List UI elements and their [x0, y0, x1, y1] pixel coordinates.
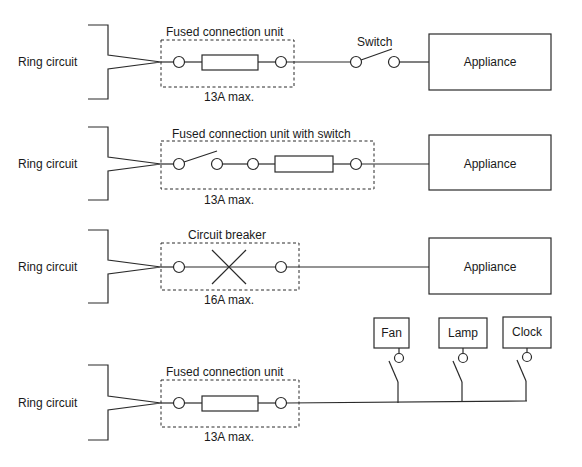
clock-label: Clock — [512, 325, 543, 339]
terminal-icon — [174, 262, 185, 273]
load-fan: Fan — [374, 318, 409, 403]
terminal-icon — [174, 398, 185, 409]
fuse-icon — [275, 156, 333, 172]
fuse-icon — [202, 396, 258, 411]
ring-circuit-bracket-icon — [88, 365, 161, 440]
terminal-icon — [174, 159, 185, 170]
row-fused-connection-unit: Ring circuit Fused connection unit 13A m… — [18, 25, 551, 104]
switch-terminal-icon — [523, 353, 532, 362]
device-label: Fused connection unit — [166, 25, 284, 39]
switch-terminal-icon — [351, 57, 362, 68]
appliance-label: Appliance — [464, 260, 517, 274]
appliance-label: Appliance — [464, 55, 517, 69]
ring-circuit-label: Ring circuit — [18, 260, 78, 274]
switch-blade-icon — [361, 49, 392, 60]
ring-circuit-bracket-icon — [88, 127, 161, 200]
row-fused-unit-multiple-loads: Ring circuit Fused connection unit 13A m… — [18, 317, 551, 444]
switch-blade-icon — [389, 361, 398, 382]
rating-label: 13A max. — [204, 193, 254, 207]
terminal-icon — [351, 159, 362, 170]
switch-terminal-icon — [395, 354, 404, 363]
row-circuit-breaker: Ring circuit Circuit breaker 16A max. Ap… — [18, 228, 551, 307]
ring-circuit-label: Ring circuit — [18, 157, 78, 171]
device-label: Fused connection unit — [166, 365, 284, 379]
terminal-icon — [174, 57, 185, 68]
ring-circuit-diagram: Ring circuit Fused connection unit 13A m… — [0, 0, 582, 467]
lamp-label: Lamp — [448, 326, 478, 340]
switch-blade-icon — [517, 360, 526, 381]
rating-label: 13A max. — [204, 90, 254, 104]
ring-circuit-label: Ring circuit — [18, 396, 78, 410]
switch-blade-icon — [184, 151, 217, 162]
load-lamp: Lamp — [439, 318, 487, 402]
terminal-icon — [276, 57, 287, 68]
switch-blade-icon — [453, 361, 462, 382]
rating-label: 13A max. — [204, 430, 254, 444]
supply-bus-line — [287, 401, 528, 403]
terminal-icon — [248, 159, 259, 170]
device-label: Circuit breaker — [188, 228, 266, 242]
terminal-icon — [276, 398, 287, 409]
ring-circuit-bracket-icon — [88, 25, 161, 99]
fuse-icon — [202, 55, 258, 70]
ring-circuit-bracket-icon — [88, 230, 161, 303]
row-fused-connection-unit-with-switch: Ring circuit Fused connection unit with … — [18, 127, 551, 207]
terminal-icon — [212, 159, 223, 170]
switch-label: Switch — [357, 35, 392, 49]
switch-terminal-icon — [389, 57, 400, 68]
ring-circuit-label: Ring circuit — [18, 55, 78, 69]
fan-label: Fan — [381, 326, 402, 340]
appliance-label: Appliance — [464, 157, 517, 171]
terminal-icon — [276, 262, 287, 273]
load-clock: Clock — [503, 317, 551, 401]
device-label: Fused connection unit with switch — [172, 127, 351, 141]
fused-unit-enclosure — [161, 141, 374, 189]
rating-label: 16A max. — [204, 293, 254, 307]
switch-terminal-icon — [459, 354, 468, 363]
